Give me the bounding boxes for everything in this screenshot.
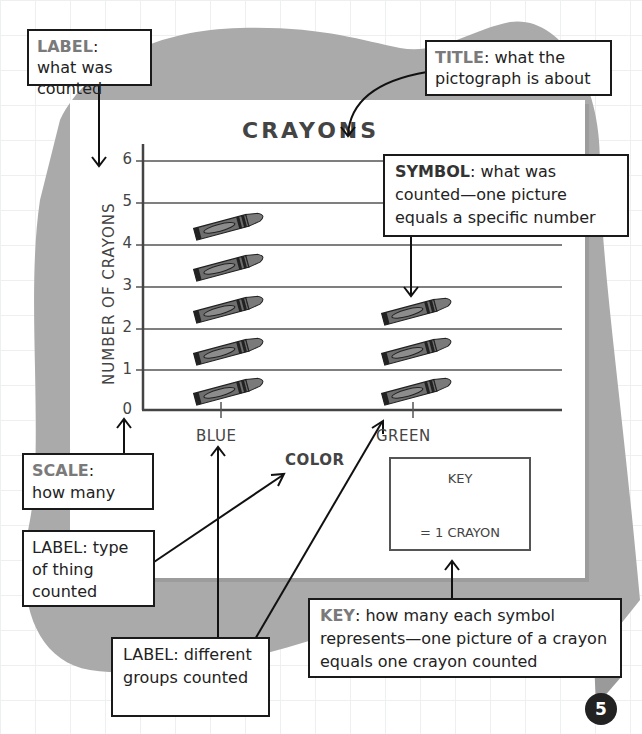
callout-label-type: LABEL: type of thing counted [22, 530, 155, 607]
key-title: KEY [391, 471, 529, 486]
blue-crayons [194, 210, 265, 405]
page-number-badge: 5 [585, 693, 617, 725]
green-crayons [382, 295, 453, 405]
callout-symbol: SYMBOL: what was counted—one picture equ… [383, 154, 629, 237]
key-value: = 1 CRAYON [391, 525, 529, 540]
y-tick-2: 2 [118, 318, 132, 336]
y-tick-3: 3 [118, 276, 132, 294]
y-tick-0: 0 [118, 400, 132, 418]
y-tick-6: 6 [118, 150, 132, 168]
y-axis-label: NUMBER OF CRAYONS [100, 202, 118, 385]
callout-title: TITLE: what the pictograph is about [425, 40, 612, 96]
x-category-blue: BLUE [196, 427, 236, 445]
y-tick-5: 5 [118, 192, 132, 210]
callout-label-groups: LABEL: different groups counted [111, 637, 270, 717]
key-box: KEY = 1 CRAYON [389, 457, 531, 551]
callout-label-counted: LABEL: what was counted [27, 29, 152, 86]
y-tick-4: 4 [118, 234, 132, 252]
callout-key: KEY: how many each symbol represents—one… [308, 598, 622, 678]
y-tick-1: 1 [118, 360, 132, 378]
x-category-green: GREEN [376, 427, 431, 445]
callout-scale: SCALE: how many [22, 453, 154, 510]
x-axis-label: COLOR [285, 451, 345, 469]
